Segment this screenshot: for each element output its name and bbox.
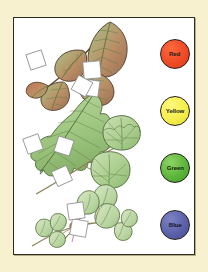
color-swatch-red[interactable]: Red bbox=[160, 39, 190, 69]
color-swatch-green-label: Green bbox=[166, 165, 183, 171]
color-swatch-yellow-label: Yellow bbox=[166, 108, 184, 114]
answer-box[interactable] bbox=[67, 202, 85, 220]
plant-illustration-group bbox=[14, 18, 149, 255]
color-swatch-yellow[interactable]: Yellow bbox=[160, 96, 190, 126]
color-swatch-green[interactable]: Green bbox=[160, 153, 190, 183]
plant-illustration-svg bbox=[14, 18, 149, 255]
color-swatch-blue[interactable]: Blue bbox=[160, 210, 190, 240]
illustration-panel: Red Yellow Green Blue bbox=[13, 17, 195, 255]
color-swatch-blue-label: Blue bbox=[169, 222, 182, 228]
answer-box[interactable] bbox=[70, 219, 89, 238]
answer-box[interactable] bbox=[26, 50, 46, 70]
color-swatch-red-label: Red bbox=[169, 51, 180, 57]
worksheet-page: Red Yellow Green Blue bbox=[0, 0, 208, 272]
answer-box[interactable] bbox=[83, 61, 101, 79]
